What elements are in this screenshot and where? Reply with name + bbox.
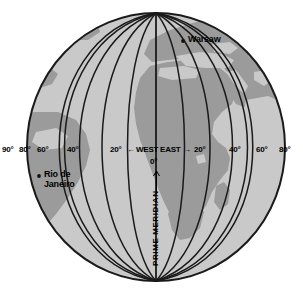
meridian-label-20e: 20° <box>194 146 206 154</box>
globe-diagram: 90° 80° 60° 40° 20° ← WEST EAST → 20° 40… <box>0 0 303 294</box>
meridian-label-40w: 40° <box>67 146 79 154</box>
meridian-label-20w: 20° <box>110 146 122 154</box>
warsaw-label: Warsaw <box>188 35 220 44</box>
meridian-label-90w: 90° <box>2 146 14 154</box>
meridian-label-60w: 60° <box>37 146 49 154</box>
meridian-label-60e: 60° <box>256 146 268 154</box>
greenland-shape <box>54 16 100 40</box>
west-label: WEST <box>136 146 158 154</box>
rio-dot <box>37 174 41 178</box>
rio-label-line2: Janeiro <box>44 180 75 189</box>
zero-degree-label: 0° <box>150 158 157 166</box>
east-label: EAST <box>160 146 181 154</box>
meridian-label-40e: 40° <box>229 146 241 154</box>
prime-meridian-label: PRIME MERIDIAN <box>152 190 160 266</box>
meridian-label-80e: 80° <box>279 146 291 154</box>
east-arrow-icon: → <box>183 146 191 154</box>
warsaw-dot <box>181 39 185 43</box>
meridian-label-80w: 80° <box>19 146 31 154</box>
west-arrow-icon: ← <box>127 146 135 154</box>
